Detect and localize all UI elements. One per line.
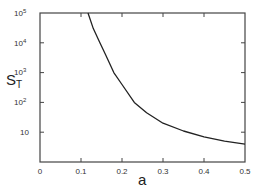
plot-area: 00.10.20.30.40.5 [38, 13, 251, 176]
x-tick-label: 0.5 [239, 167, 251, 176]
y-tick-1e5: 105 [14, 8, 27, 18]
series-line [88, 13, 245, 144]
y-tick-1e4: 104 [14, 38, 27, 48]
x-tick-label: 0.2 [116, 167, 128, 176]
x-tick-label: 0.4 [198, 167, 210, 176]
y-tick-10: 10 [20, 128, 29, 137]
x-axis-label: a [138, 171, 147, 188]
x-tick-label: 0.1 [75, 167, 87, 176]
x-tick-label: 0 [38, 167, 43, 176]
y-tick-1e2: 102 [14, 97, 27, 107]
x-tick-label: 0.3 [157, 167, 169, 176]
chart: 00.10.20.30.40.5 105 104 103 102 10 ST a [0, 0, 259, 194]
